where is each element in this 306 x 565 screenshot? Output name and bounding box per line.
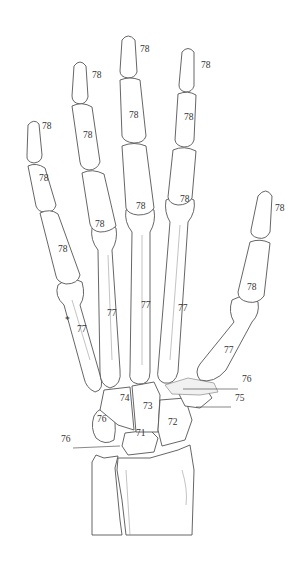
label-trapezoid: 72: [168, 418, 178, 428]
label-ring-proximal: 78: [95, 220, 105, 230]
annotation-asterisk: *: [65, 316, 70, 326]
label-index-middle: 78: [184, 113, 194, 123]
label-thumb-proximal: 78: [247, 283, 257, 293]
label-thumb-distal: 78: [275, 204, 285, 214]
label-trapezium-pointer: 76: [242, 375, 252, 385]
index-finger-phalanges: [168, 49, 196, 206]
ring-finger-phalanges: [72, 62, 116, 232]
label-triquetrum: 76: [97, 415, 107, 425]
label-metacarpal-3: 77: [141, 301, 151, 311]
label-scaphoid-pointer: 75: [235, 394, 245, 404]
hand-skeleton-diagram: [0, 0, 306, 565]
label-metacarpal-1: 77: [224, 346, 234, 356]
label-ring-distal: 78: [92, 71, 102, 81]
label-index-distal: 78: [201, 61, 211, 71]
label-lunate: 71: [136, 429, 146, 439]
label-middle-distal: 78: [140, 45, 150, 55]
label-little-middle: 78: [39, 174, 49, 184]
metacarpal-bones: [57, 196, 259, 392]
middle-finger-phalanges: [120, 36, 154, 215]
label-ring-middle: 78: [83, 131, 93, 141]
label-metacarpal-2: 77: [178, 304, 188, 314]
label-middle-proximal: 78: [136, 202, 146, 212]
label-little-proximal: 78: [58, 245, 68, 255]
label-middle-middle: 78: [129, 111, 139, 121]
label-metacarpal-4: 77: [107, 309, 117, 319]
label-capitate: 73: [143, 402, 153, 412]
label-metacarpal-5: 77: [77, 325, 87, 335]
label-index-proximal: 78: [180, 195, 190, 205]
forearm-bones: [92, 445, 194, 535]
label-pisiform-pointer: 76: [61, 435, 71, 445]
label-little-distal: 78: [42, 122, 52, 132]
carpal-bones: [92, 378, 218, 455]
little-finger-phalanges: [27, 121, 80, 284]
label-hamate: 74: [120, 394, 130, 404]
